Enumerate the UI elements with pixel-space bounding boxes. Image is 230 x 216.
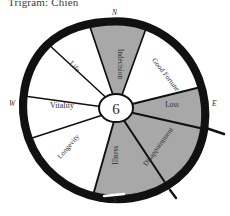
compass-label-south: S — [113, 196, 117, 205]
segment-label-loss: Loss — [165, 101, 179, 109]
spoke-overshoot-2 — [170, 190, 176, 198]
compass-label-east: E — [212, 99, 217, 108]
divination-wheel: 6 Indecision Good Fortune Loss Disappoin… — [0, 0, 230, 216]
segment-label-vitality: Vitality — [50, 101, 74, 110]
diagram-page: Trigram: Chien — [0, 0, 230, 216]
compass-label-north: N — [112, 8, 117, 17]
segment-label-illness: Illness — [112, 145, 120, 164]
center-value: 6 — [112, 101, 120, 117]
wheel-svg: 6 Indecision Good Fortune Loss Disappoin… — [0, 0, 230, 216]
compass-label-west: W — [9, 99, 15, 108]
spoke-overshoot — [206, 128, 224, 134]
segment-label-indecision: Indecision — [116, 49, 124, 79]
